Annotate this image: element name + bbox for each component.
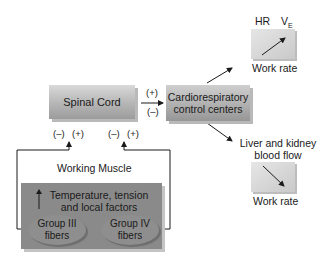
working-muscle-box: Temperature, tension and local factors G… xyxy=(21,183,162,249)
liver-flow-graph xyxy=(251,162,295,192)
group3-fibers-oval: Group III fibers xyxy=(28,215,86,245)
spinal-cord-box: Spinal Cord xyxy=(49,85,135,119)
sign-plus-spinal-cardio: (+) xyxy=(146,87,158,98)
hr-label: HR xyxy=(255,15,270,27)
cardio-to-liver-arrow xyxy=(207,123,232,141)
liver-kidney-label: Liver and kidney blood flow xyxy=(232,137,324,161)
cardiorespiratory-box: Cardiorespiratory control centers xyxy=(166,85,250,121)
group4-fibers-oval: Group IV fibers xyxy=(101,215,159,245)
cardio-label-line1: Cardiorespiratory xyxy=(168,91,249,103)
up-arrow-icon xyxy=(36,189,42,209)
group3-sign-plus: (+) xyxy=(72,128,84,139)
cardio-to-hr-arrow xyxy=(207,68,232,83)
group4-sign-plus: (+) xyxy=(127,128,139,139)
increasing-trend-icon xyxy=(251,29,295,59)
sign-minus-spinal-cardio: (–) xyxy=(147,106,159,117)
hr-ve-graph xyxy=(251,29,295,59)
working-muscle-label: Working Muscle xyxy=(57,162,132,174)
spinal-cord-label: Spinal Cord xyxy=(63,96,120,108)
cardio-label-line2: control centers xyxy=(168,103,249,115)
muscle-factors-label: Temperature, tension and local factors xyxy=(43,189,155,213)
top-graph-x-label: Work rate xyxy=(252,62,297,74)
group4-sign-minus: (–) xyxy=(108,128,120,139)
decreasing-trend-icon xyxy=(251,162,295,192)
ve-label: VE xyxy=(281,15,293,29)
bottom-graph-x-label: Work rate xyxy=(253,195,298,207)
group3-sign-minus: (–) xyxy=(53,128,65,139)
